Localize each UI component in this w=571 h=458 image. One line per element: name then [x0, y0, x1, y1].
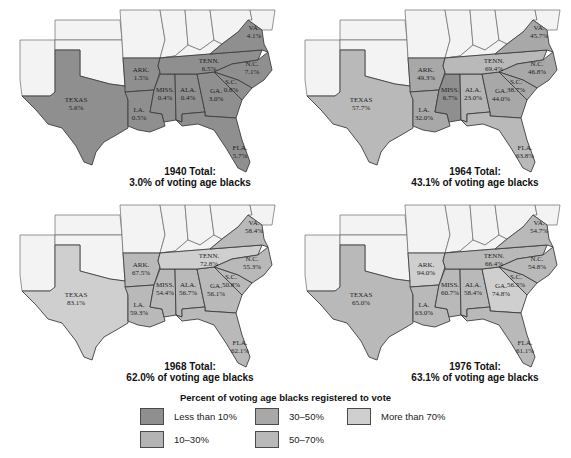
background-state [20, 40, 55, 96]
map-total-caption: 1964 Total:43.1% of voting age blacks [405, 166, 545, 188]
legend-label-50-70: 50–70% [289, 434, 324, 445]
legend-item-50-70: 50–70% [255, 431, 324, 448]
background-state [305, 235, 340, 291]
state-label-fl: FLA.61.1% [516, 339, 534, 355]
background-state [340, 215, 407, 235]
total-percent: 3.0% of voting age blacks [120, 177, 260, 188]
background-state [55, 215, 122, 235]
state-label-ms: MISS.0.4% [156, 86, 174, 102]
legend-label-10-30: 10–30% [174, 434, 209, 445]
total-year: 1940 Total: [120, 166, 260, 177]
state-label-ga: GA.3.0% [209, 87, 224, 103]
state-label-fl: FLA.5.7% [233, 144, 248, 160]
state-label-nc: N.C.46.8% [528, 60, 546, 76]
state-label-tx: TEXAS83.1% [65, 291, 88, 307]
state-label-al: ALA.58.4% [464, 281, 482, 297]
legend-label-gt70: More than 70% [381, 411, 445, 422]
state-label-ms: MISS.54.4% [156, 281, 174, 297]
state-label-nc: N.C.55.3% [243, 255, 261, 271]
total-percent: 43.1% of voting age blacks [405, 177, 545, 188]
map-1976: TEXAS65.0%ARK.94.0%LA.63.0%MISS.60.7%ALA… [285, 195, 570, 390]
legend-item-10-30: 10–30% [140, 431, 209, 448]
legend: Percent of voting age blacks registered … [0, 390, 571, 458]
state-label-tn: TENN.69.4% [484, 57, 505, 73]
total-year: 1968 Total: [120, 361, 260, 372]
state-label-ar: ARK.67.5% [132, 261, 150, 277]
state-label-ar: ARK.49.3% [417, 66, 435, 82]
map-1964: TEXAS57.7%ARK.49.3%LA.32.0%MISS.6.7%ALA.… [285, 0, 570, 195]
state-label-nc: N.C.54.8% [528, 255, 546, 271]
state-label-va: VA.4.1% [247, 24, 262, 40]
legend-label-30-50: 30–50% [289, 411, 324, 422]
state-label-fl: FLA.63.8% [516, 144, 534, 160]
map-1940: TEXAS5.6%ARK.1.5%LA.0.5%MISS.0.4%ALA.0.4… [0, 0, 285, 195]
total-year: 1964 Total: [405, 166, 545, 177]
map-1968: TEXAS83.1%ARK.67.5%LA.59.3%MISS.54.4%ALA… [0, 195, 285, 390]
state-label-al: ALA.23.0% [464, 86, 482, 102]
background-state [55, 20, 122, 40]
state-label-tx: TEXAS57.7% [350, 96, 373, 112]
total-percent: 62.0% of voting age blacks [120, 372, 260, 383]
state-label-ar: ARK.1.5% [133, 66, 150, 82]
state-fl [176, 112, 250, 172]
background-state [405, 10, 450, 58]
legend-label-lt10: Less than 10% [174, 411, 237, 422]
background-state [120, 10, 165, 58]
state-label-al: ALA.0.4% [180, 86, 196, 102]
legend-item-lt10: Less than 10% [140, 408, 237, 425]
legend-swatch-10-30 [140, 431, 164, 448]
state-label-ar: ARK.94.0% [417, 261, 435, 277]
state-label-ms: MISS.6.7% [441, 86, 459, 102]
legend-swatch-30-50 [255, 408, 279, 425]
map-total-caption: 1968 Total:62.0% of voting age blacks [120, 361, 260, 383]
legend-swatch-gt70 [347, 408, 371, 425]
legend-swatch-50-70 [255, 431, 279, 448]
state-label-nc: N.C.7.1% [245, 60, 260, 76]
legend-item-gt70: More than 70% [347, 408, 445, 425]
state-fl [461, 307, 535, 367]
legend-item-30-50: 30–50% [255, 408, 324, 425]
state-label-tx: TEXAS65.0% [350, 291, 373, 307]
state-label-tn: TENN.72.8% [199, 252, 220, 268]
background-state [340, 20, 407, 40]
state-fl [176, 307, 250, 367]
legend-title: Percent of voting age blacks registered … [0, 392, 571, 403]
total-percent: 63.1% of voting age blacks [405, 372, 545, 383]
state-label-la: LA.0.5% [132, 106, 147, 122]
state-fl [461, 112, 535, 172]
state-label-sc: S.C.0.8% [224, 78, 239, 94]
state-label-fl: FLA.62.1% [231, 339, 249, 355]
total-year: 1976 Total: [405, 361, 545, 372]
map-total-caption: 1940 Total:3.0% of voting age blacks [120, 166, 260, 188]
state-label-ms: MISS.60.7% [441, 281, 459, 297]
legend-swatch-lt10 [140, 408, 164, 425]
background-state [305, 40, 340, 96]
background-state [20, 235, 55, 291]
state-label-tn: TENN.66.4% [484, 252, 505, 268]
background-state [120, 205, 165, 253]
state-label-al: ALA.56.7% [179, 281, 197, 297]
map-total-caption: 1976 Total:63.1% of voting age blacks [405, 361, 545, 383]
background-state [405, 205, 450, 253]
